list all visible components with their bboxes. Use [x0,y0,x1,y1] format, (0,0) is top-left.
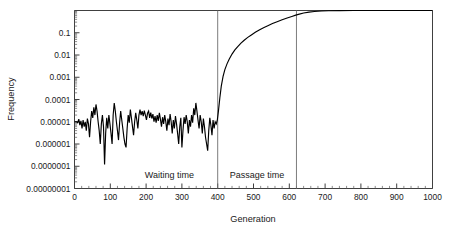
x-tick-label: 400 [211,192,225,202]
x-tick-label: 1000 [423,192,442,202]
x-tick-label: 200 [139,192,153,202]
y-tick-label: 0.00000001 [26,184,71,194]
x-axis-ticks [75,184,433,189]
axis-frame [75,11,433,189]
x-tick-label: 100 [103,192,117,202]
y-axis-title: Frequency [6,77,16,121]
x-axis-tick-labels: 01002003004005006007008009001000 [72,192,442,202]
phase-divider-lines [218,11,297,189]
y-axis-ticks [75,11,80,189]
y-tick-label: 0.001 [50,72,71,82]
plot-frame [75,11,433,189]
x-tick-label: 600 [282,192,296,202]
y-axis-tick-labels: 0.10.010.0010.00010.000010.0000010.00000… [26,28,71,194]
x-tick-label: 300 [175,192,189,202]
y-tick-label: 0.1 [59,28,71,38]
x-tick-label: 0 [72,192,77,202]
x-tick-label: 900 [390,192,404,202]
x-tick-label: 700 [318,192,332,202]
phase-annotations: Waiting timePassage time [145,170,285,180]
phase-label: Passage time [230,170,285,180]
y-tick-label: 0.0000001 [31,161,71,171]
y-tick-label: 0.01 [54,50,71,60]
x-tick-label: 800 [354,192,368,202]
y-tick-label: 0.000001 [36,139,71,149]
y-tick-label: 0.0001 [45,95,71,105]
phase-label: Waiting time [145,170,194,180]
frequency-vs-generation-chart: 0.10.010.0010.00010.000010.0000010.00000… [0,0,451,229]
chart-canvas: 0.10.010.0010.00010.000010.0000010.00000… [0,0,451,229]
allele-frequency-trace [75,11,433,165]
y-tick-label: 0.00001 [40,117,71,127]
x-tick-label: 500 [247,192,261,202]
x-axis-title: Generation [230,214,275,224]
